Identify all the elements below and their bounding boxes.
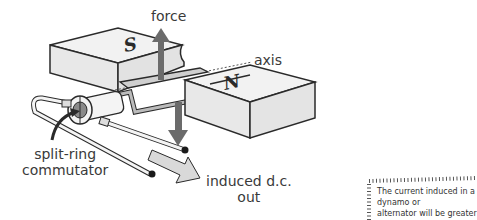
north-magnet: N xyxy=(185,65,315,138)
commutator-label-line1: split-ring xyxy=(22,146,108,162)
output-label: induced d.c. out xyxy=(206,173,292,205)
side-note: The current induced in a dynamo or alter… xyxy=(377,186,477,220)
commutator-label-line2: commutator xyxy=(22,162,108,178)
commutator-label: split-ring commutator xyxy=(22,146,108,178)
side-note-line1: The current induced in a dynamo or xyxy=(377,186,477,208)
axis-label: axis xyxy=(254,52,282,68)
output-label-line1: induced d.c. xyxy=(206,173,292,189)
output-arrow xyxy=(148,150,200,183)
force-label: force xyxy=(151,8,186,24)
output-label-line2: out xyxy=(206,189,292,205)
side-note-line2: alternator will be greater if there are xyxy=(377,208,477,220)
